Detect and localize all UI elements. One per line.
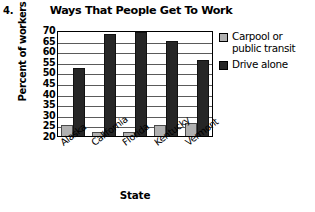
chart-legend: Carpool or public transitDrive alone (219, 31, 313, 76)
y-tick-label: 25 (43, 122, 55, 132)
y-tick-label: 30 (43, 111, 55, 121)
legend-label: Carpool or public transit (232, 31, 313, 54)
bar-group (58, 32, 89, 136)
y-tick-label: 55 (43, 58, 55, 68)
bar-drive (135, 32, 147, 136)
y-axis-tick-labels: 7065605550454035302520 (36, 31, 55, 137)
legend-swatch-drive (219, 61, 228, 70)
x-axis-tick-labels: AlaskaCaliforniaFloridaKentuckyVermont (57, 139, 213, 187)
y-tick-label: 50 (43, 69, 55, 79)
y-tick-label: 35 (43, 100, 55, 110)
y-axis-label: Percent of workers (17, 0, 28, 107)
chart-figure: 4. Ways That People Get To Work Percent … (0, 0, 315, 212)
x-axis-label: State (57, 189, 213, 201)
y-tick-label: 65 (43, 37, 55, 47)
chart-title: Ways That People Get To Work (46, 4, 236, 17)
legend-item: Drive alone (219, 59, 313, 71)
legend-label: Drive alone (232, 59, 288, 71)
y-tick-label: 40 (43, 90, 55, 100)
problem-number: 4. (3, 5, 13, 16)
y-tick-label: 45 (43, 79, 55, 89)
y-tick-label: 20 (43, 132, 55, 142)
y-tick-label: 60 (43, 47, 55, 57)
y-tick-label: 70 (43, 26, 55, 36)
legend-swatch-carpool (219, 33, 228, 42)
legend-item: Carpool or public transit (219, 31, 313, 54)
